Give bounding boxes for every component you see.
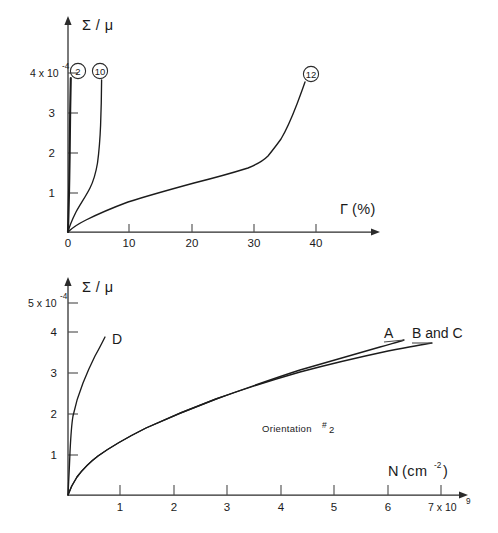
bottom-y-tick-label-4: 4 <box>51 326 58 338</box>
bottom-annotation-text: Orientation <box>262 423 312 434</box>
bottom-curve-D <box>68 337 105 495</box>
top-marker-10-label: 10 <box>95 66 106 77</box>
bottom-y-tick-label-5-exponent: -4 <box>60 292 68 301</box>
bottom-x-axis-label: N (cm -2 ) <box>388 461 448 479</box>
top-x-axis <box>68 228 380 235</box>
bottom-x-tick-labels: 1 2 3 4 5 6 7 x 10 9 <box>117 497 471 513</box>
top-x-tick-label-40: 40 <box>310 237 323 249</box>
top-x-axis-label-symbol: Γ <box>340 201 348 217</box>
bottom-x-axis-label-symbol: N <box>388 463 399 479</box>
bottom-chart-panel: Σ / μ N (cm -2 ) 5 x 10 -4 4 3 2 1 1 2 3 <box>28 277 471 513</box>
top-y-axis-arrowhead <box>64 16 71 25</box>
bottom-y-ticks <box>68 303 78 455</box>
bottom-y-axis <box>64 277 71 495</box>
bottom-x-tick-label-4: 4 <box>278 501 285 513</box>
bottom-x-tick-label-3: 3 <box>224 501 230 513</box>
top-x-axis-label: Γ (%) <box>340 201 376 217</box>
bottom-y-tick-label-5: 5 x 10 <box>28 297 57 309</box>
top-marker-2-label: 2 <box>75 66 80 77</box>
bottom-curve-label-A: A <box>384 325 394 341</box>
top-x-axis-label-unit: (%) <box>352 201 376 217</box>
bottom-x-tick-label-7-exponent: 9 <box>466 497 471 506</box>
figure-canvas: Σ / μ Γ (%) 4 x 10 -4 3 2 1 0 10 20 30 4… <box>0 0 498 533</box>
top-x-tick-labels: 0 10 20 30 40 <box>65 237 323 249</box>
top-y-tick-label-4-exponent: -4 <box>62 62 70 71</box>
top-y-tick-label-2: 2 <box>49 147 55 159</box>
bottom-x-tick-label-2: 2 <box>171 501 177 513</box>
top-x-tick-label-20: 20 <box>186 237 199 249</box>
top-marker-12-label: 12 <box>306 69 317 80</box>
bottom-y-tick-label-2: 2 <box>51 408 57 420</box>
top-chart-panel: Σ / μ Γ (%) 4 x 10 -4 3 2 1 0 10 20 30 4… <box>30 16 380 249</box>
top-x-tick-label-10: 10 <box>123 237 136 249</box>
bottom-annotation: Orientation # 2 <box>262 420 335 435</box>
figure-root: Σ / μ Γ (%) 4 x 10 -4 3 2 1 0 10 20 30 4… <box>0 0 498 533</box>
bottom-y-axis-label: Σ / μ <box>82 279 113 295</box>
bottom-x-axis-label-unit-open: (cm <box>402 463 427 479</box>
bottom-x-axis-label-unit-exponent: -2 <box>434 461 442 470</box>
top-marker-2: 2 <box>70 63 85 78</box>
bottom-x-tick-label-1: 1 <box>117 501 123 513</box>
top-x-axis-arrowhead <box>371 228 380 235</box>
bottom-x-tick-label-7: 7 x 10 <box>428 501 457 513</box>
top-curve-series-10 <box>68 80 102 232</box>
bottom-y-axis-arrowhead <box>64 277 71 286</box>
bottom-y-tick-labels: 5 x 10 -4 4 3 2 1 <box>28 292 68 461</box>
bottom-annotation-number: 2 <box>329 424 335 435</box>
top-marker-12: 12 <box>303 66 318 81</box>
bottom-x-tick-label-6: 6 <box>385 501 391 513</box>
bottom-x-ticks <box>120 485 441 495</box>
top-marker-10: 10 <box>92 63 107 78</box>
top-y-tick-label-1: 1 <box>49 187 55 199</box>
top-x-tick-label-0: 0 <box>65 237 71 249</box>
bottom-x-tick-label-5: 5 <box>331 501 337 513</box>
bottom-x-axis-label-unit-close: ) <box>443 463 448 479</box>
top-x-tick-label-30: 30 <box>248 237 261 249</box>
bottom-curve-B-and-C <box>68 343 432 495</box>
bottom-curve-label-B-and-C: B and C <box>412 325 463 341</box>
top-y-tick-labels: 4 x 10 -4 3 2 1 <box>30 62 70 199</box>
top-y-tick-label-3: 3 <box>49 107 55 119</box>
bottom-x-axis <box>68 491 468 498</box>
bottom-y-tick-label-3: 3 <box>51 367 57 379</box>
bottom-curve-label-D: D <box>112 331 122 347</box>
bottom-annotation-hash: # <box>322 420 327 430</box>
bottom-curve-A <box>68 340 404 495</box>
top-x-ticks <box>68 224 316 232</box>
bottom-y-tick-label-1: 1 <box>51 449 57 461</box>
top-y-tick-label-4: 4 x 10 <box>30 67 59 79</box>
top-curve-series-12 <box>68 82 305 232</box>
top-y-axis-label: Σ / μ <box>82 17 113 33</box>
